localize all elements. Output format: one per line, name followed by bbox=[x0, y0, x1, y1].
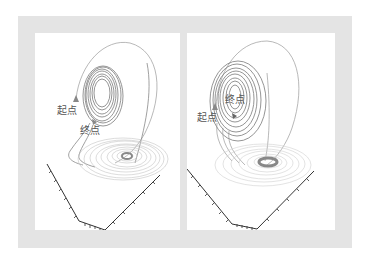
right-trajectory-plot bbox=[187, 33, 335, 230]
start-label: 起点 bbox=[57, 106, 77, 116]
axes bbox=[47, 164, 160, 230]
end-label: 终点 bbox=[80, 126, 100, 136]
start-label: 起点 bbox=[197, 113, 217, 123]
figure-frame: 起点 终点 bbox=[18, 16, 352, 248]
right-panel: 起点 终点 bbox=[187, 33, 335, 230]
axes bbox=[187, 169, 314, 229]
start-marker-icon bbox=[73, 95, 79, 102]
end-label: 终点 bbox=[225, 95, 245, 105]
left-trajectory-plot bbox=[35, 33, 180, 230]
left-panel: 起点 终点 bbox=[35, 33, 180, 230]
